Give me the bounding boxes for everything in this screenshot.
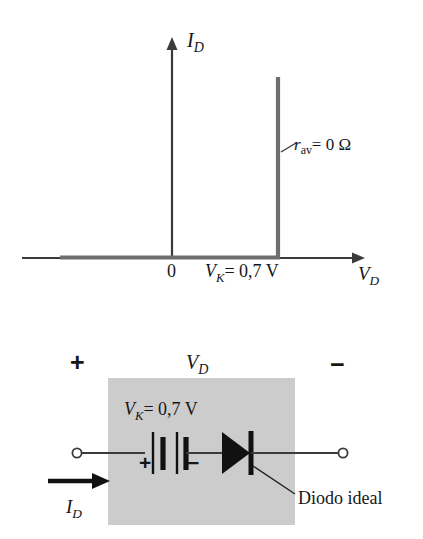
polarity-minus-label: − [330,352,345,377]
origin-label: 0 [167,262,176,280]
battery-voltage-main: V [124,399,135,419]
iv-curve [60,77,278,258]
y-axis-arrowhead [167,37,178,50]
x-axis-label-main: V [358,263,370,284]
current-direction-arrow [48,473,110,489]
x-axis-arrowhead [352,253,365,264]
x-axis-label-sub: D [370,273,380,288]
current-arrow-head [92,473,110,489]
y-axis-label: ID [187,30,204,50]
box-voltage-main: V [186,351,198,373]
knee-voltage-main: V [205,261,216,281]
battery-voltage-label: VK= 0,7 V [124,400,198,418]
average-resistance-annotation: rav= 0 Ω [294,136,351,153]
battery-plus-terminal-label: + [139,452,151,473]
current-label: ID [66,497,82,516]
current-label-sub: D [72,506,82,521]
left-terminal [72,448,81,457]
box-voltage-sub: D [198,362,208,377]
diode-callout-label: Diodo ideal [298,489,382,507]
right-terminal [338,448,347,457]
y-axis-label-main: I [187,29,194,51]
box-voltage-label: VD [186,352,208,372]
polarity-plus-label: + [70,350,85,375]
x-axis-label: VD [358,264,379,283]
rav-symbol-sub: av [301,143,312,157]
knee-voltage-value: = 0,7 V [224,261,278,281]
battery-minus-terminal-label: − [187,452,199,473]
rav-symbol-main: r [294,135,301,154]
knee-voltage-label: VK= 0,7 V [205,262,279,280]
battery-voltage-value: = 0,7 V [143,399,197,419]
rav-value: = 0 Ω [312,135,351,154]
y-axis-label-sub: D [194,40,204,55]
